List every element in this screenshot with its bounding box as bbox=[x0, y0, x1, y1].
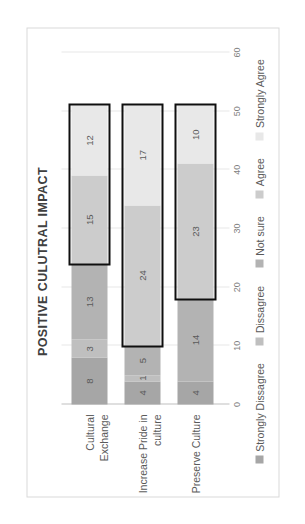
bar-segment-label: 15 bbox=[82, 175, 96, 263]
bar-segment: 5 bbox=[124, 345, 160, 374]
bar-segment-label: 24 bbox=[135, 205, 149, 346]
bar-segment-label: 1 bbox=[135, 375, 149, 381]
legend-swatch-icon bbox=[255, 455, 263, 463]
bar-segment: 23 bbox=[177, 163, 213, 298]
bar-segment: 4 bbox=[177, 381, 213, 404]
bar-segment: 8 bbox=[71, 357, 107, 404]
legend-label: Strongly Agree bbox=[253, 59, 265, 128]
bar-segment-label: 14 bbox=[188, 298, 202, 380]
bar-row: 83131512 bbox=[71, 52, 107, 404]
x-tick-label: 60 bbox=[231, 37, 241, 67]
y-category-label: Increase Pride in culture bbox=[135, 414, 149, 498]
legend-label: Not sure bbox=[253, 216, 265, 256]
x-tick-label: 40 bbox=[231, 154, 241, 184]
legend-swatch-icon bbox=[255, 337, 263, 345]
bar-segment: 14 bbox=[177, 298, 213, 380]
x-axis-tick-labels: 0102030405060 bbox=[231, 52, 245, 404]
x-tick-label: 50 bbox=[231, 96, 241, 126]
bar-row: 4152417 bbox=[124, 52, 160, 404]
chart-legend: Strongly DissagreeDissagreeNot sureAgree… bbox=[249, 26, 269, 496]
bar-segment-label: 13 bbox=[82, 263, 96, 339]
chart-frame: POSITIVE CULUTRAL IMPACT 831315124152417… bbox=[26, 27, 279, 497]
x-tick-label: 10 bbox=[231, 330, 241, 360]
bar-segment: 13 bbox=[71, 263, 107, 339]
plot-area: 83131512415241740142310 bbox=[61, 52, 229, 404]
legend-label: Agree bbox=[253, 158, 265, 186]
y-category-label: Preserve Culture bbox=[188, 414, 202, 498]
legend-item[interactable]: Agree bbox=[253, 158, 265, 198]
bar-segment: 1 bbox=[124, 375, 160, 381]
bar-segment-label: 10 bbox=[188, 105, 202, 164]
bar-segment: 15 bbox=[71, 175, 107, 263]
legend-label: Dissagree bbox=[253, 285, 265, 332]
legend-item[interactable]: Strongly Agree bbox=[253, 59, 265, 140]
bar-segment-label: 17 bbox=[135, 105, 149, 205]
legend-label: Strongly Dissagree bbox=[253, 363, 265, 452]
legend-item[interactable]: Dissagree bbox=[253, 285, 265, 344]
bar-segment: 24 bbox=[124, 205, 160, 346]
bar-segment-label: 23 bbox=[188, 163, 202, 298]
bar-segment: 12 bbox=[71, 105, 107, 175]
bar-segment-label: 8 bbox=[82, 357, 96, 404]
bar-segment: 3 bbox=[71, 339, 107, 357]
bar-segment-label: 12 bbox=[82, 105, 96, 175]
bar-segment-label: 4 bbox=[135, 381, 149, 404]
bar-segment-label: 4 bbox=[188, 381, 202, 404]
bar-row: 40142310 bbox=[177, 52, 213, 404]
bar-segment-label: 3 bbox=[82, 339, 96, 357]
bar-segment-label: 5 bbox=[135, 345, 149, 374]
x-tick-label: 30 bbox=[231, 213, 241, 243]
bar-segment: 4 bbox=[124, 381, 160, 404]
y-axis-category-labels: Cultural ExchangeIncrease Pride in cultu… bbox=[61, 408, 229, 496]
legend-swatch-icon bbox=[255, 132, 263, 140]
x-tick-label: 20 bbox=[231, 272, 241, 302]
bar-segment: 10 bbox=[177, 105, 213, 164]
legend-swatch-icon bbox=[255, 190, 263, 198]
chart-page: POSITIVE CULUTRAL IMPACT 831315124152417… bbox=[0, 0, 305, 524]
legend-swatch-icon bbox=[255, 259, 263, 267]
rotated-chart-canvas: POSITIVE CULUTRAL IMPACT 831315124152417… bbox=[26, 27, 279, 497]
bar-segment: 17 bbox=[124, 105, 160, 205]
legend-item[interactable]: Not sure bbox=[253, 216, 265, 268]
y-category-label: Cultural Exchange bbox=[82, 414, 96, 498]
x-tick-label: 0 bbox=[231, 389, 241, 419]
chart-title: POSITIVE CULUTRAL IMPACT bbox=[35, 26, 49, 496]
legend-item[interactable]: Strongly Dissagree bbox=[253, 363, 265, 464]
